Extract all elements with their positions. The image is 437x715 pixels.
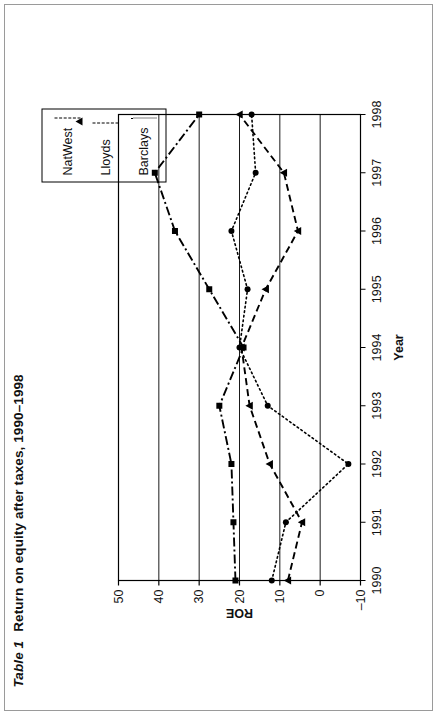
data-point-circle: [252, 169, 258, 175]
y-axis-title: ROE: [225, 605, 252, 619]
chart-plot-area: 50403020100–10ROE19901991199219931994199…: [112, 100, 412, 620]
x-tick-label: 1993: [369, 391, 383, 419]
triangle-marker-icon: [54, 114, 80, 127]
table-label: Table 1: [10, 640, 25, 687]
data-point-square: [171, 228, 177, 234]
figure-page: Table 1Return on equity after taxes, 199…: [0, 0, 437, 715]
y-tick-label: 30: [192, 589, 206, 603]
data-point-circle: [244, 286, 250, 292]
data-point-square: [230, 519, 236, 525]
data-point-triangle: [265, 460, 272, 468]
y-tick-label: –10: [353, 589, 367, 610]
data-point-circle: [282, 519, 288, 525]
data-point-circle: [248, 111, 254, 117]
x-tick-label: 1990: [369, 566, 383, 594]
legend-item-natwest[interactable]: NatWest: [48, 114, 86, 175]
legend-label-lloyds: Lloyds: [98, 132, 112, 175]
legend-label-natwest: NatWest: [60, 127, 74, 175]
y-tick-label: 20: [232, 589, 246, 603]
series-line-lloyds: [154, 114, 243, 580]
x-tick-label: 1992: [369, 450, 383, 478]
data-point-square: [216, 402, 222, 408]
data-point-square: [232, 577, 238, 583]
y-tick-label: 50: [112, 589, 125, 603]
x-tick-label: 1996: [369, 217, 383, 245]
series-line-barclays: [231, 114, 348, 580]
page-title: Return on equity after taxes, 1990–1998: [10, 374, 25, 632]
x-tick-label: 1998: [369, 100, 383, 128]
x-tick-label: 1991: [369, 508, 383, 536]
data-point-circle: [268, 577, 274, 583]
rotated-figure-canvas: Table 1Return on equity after taxes, 199…: [0, 0, 437, 715]
x-tick-label: 1995: [369, 275, 383, 303]
data-point-square: [206, 286, 212, 292]
data-point-circle: [264, 402, 270, 408]
y-tick-label: 0: [313, 589, 327, 596]
x-tick-label: 1994: [369, 333, 383, 361]
data-point-square: [196, 111, 202, 117]
y-tick-label: 10: [272, 589, 286, 603]
y-tick-label: 40: [151, 589, 165, 603]
data-point-square: [228, 461, 234, 467]
series-line-natwest: [239, 114, 302, 580]
line-chart: 50403020100–10ROE19901991199219931994199…: [112, 100, 412, 620]
figure-title: Table 1Return on equity after taxes, 199…: [10, 374, 25, 687]
data-point-square: [151, 169, 157, 175]
x-axis-title: Year: [391, 334, 405, 361]
series-lloyds: [151, 111, 246, 583]
x-tick-label: 1997: [369, 158, 383, 186]
